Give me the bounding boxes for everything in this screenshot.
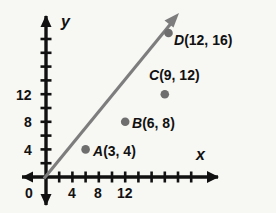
x-axis-arrow-left-icon: [22, 172, 33, 183]
data-point-B[interactable]: [121, 118, 130, 127]
point-label-C-coords: (9, 12): [159, 67, 199, 83]
x-axis-arrow-right-icon: [207, 171, 219, 183]
point-label-C-letter: C: [149, 67, 159, 83]
x-axis: [22, 171, 219, 183]
graph-figure: y x 0 4 8 12 4 8 12 A(3, 4) B(6, 8) C(9,…: [0, 0, 276, 213]
origin-label: 0: [25, 186, 33, 200]
point-label-A-letter: A: [93, 143, 103, 159]
y-tick-label-8: 8: [24, 115, 32, 129]
data-point-C[interactable]: [161, 90, 170, 99]
coordinate-plane-svg: [0, 0, 276, 213]
data-points: [81, 29, 173, 154]
y-tick-label-4: 4: [24, 143, 32, 157]
x-tick-label-4: 4: [68, 186, 76, 200]
y-axis-label: y: [61, 14, 70, 30]
data-point-A[interactable]: [81, 145, 90, 154]
x-axis-label: x: [196, 147, 205, 163]
y-axis-arrow-up-icon: [41, 15, 52, 27]
point-label-A: A(3, 4): [93, 144, 136, 158]
data-point-D[interactable]: [164, 29, 173, 38]
point-label-C: C(9, 12): [149, 68, 200, 82]
point-label-B-coords: (6, 8): [142, 115, 175, 131]
point-label-B: B(6, 8): [132, 116, 175, 130]
point-label-D: D(12, 16): [174, 33, 232, 47]
point-label-B-letter: B: [132, 115, 142, 131]
data-line-arrow-icon: [165, 13, 180, 28]
point-label-D-letter: D: [174, 32, 184, 48]
x-tick-label-12: 12: [117, 186, 133, 200]
point-label-D-coords: (12, 16): [184, 32, 232, 48]
y-axis-arrow-down-icon: [41, 194, 52, 206]
point-label-A-coords: (3, 4): [103, 143, 136, 159]
x-tick-label-8: 8: [94, 186, 102, 200]
y-tick-label-12: 12: [16, 88, 32, 102]
